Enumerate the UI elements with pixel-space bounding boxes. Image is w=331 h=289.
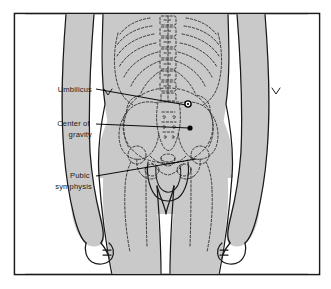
label-umbilicus: Umbilicus [58,85,92,94]
umbilicus-marker-center [187,103,189,105]
label-center-of-gravity-line-1: Center of [57,119,90,128]
label-pubic-symphysis-line-2: symphysis [55,182,92,191]
label-pubic-symphysis-line-1: Pubic [70,171,90,180]
right-outer-band-fill [308,14,319,273]
center-of-gravity-marker [187,125,192,130]
anatomy-diagram-svg: Umbilicus Center of gravity Pubic symphy… [0,0,331,289]
label-center-of-gravity-line-2: gravity [69,130,92,139]
left-outer-band-fill [15,14,25,273]
label-umbilicus-line-1: Umbilicus [58,85,92,94]
anatomical-figure: Umbilicus Center of gravity Pubic symphy… [0,0,331,289]
